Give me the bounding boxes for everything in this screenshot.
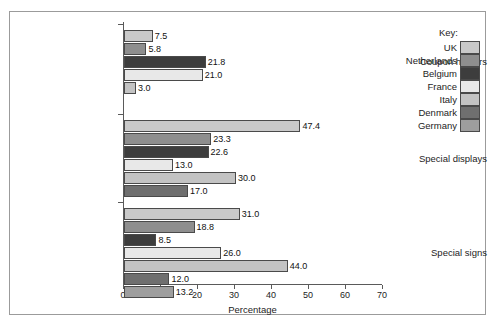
legend-swatch xyxy=(460,41,480,54)
x-tick-label: 50 xyxy=(303,290,313,300)
x-tick-label: 60 xyxy=(340,290,350,300)
x-tick xyxy=(197,285,198,289)
bar-value-label: 18.8 xyxy=(197,222,215,232)
x-tick xyxy=(308,285,309,289)
bar-value-label: 21.8 xyxy=(208,57,226,67)
bar xyxy=(124,120,300,132)
x-tick-label: 70 xyxy=(377,290,387,300)
category-label: Special signs xyxy=(383,247,487,258)
bar-value-label: 30.0 xyxy=(238,173,256,183)
bar-value-label: 7.5 xyxy=(155,31,168,41)
bar xyxy=(124,208,240,220)
bar-value-label: 26.0 xyxy=(223,248,241,258)
legend: Key: UKNetherlandsBelgiumFranceItalyDenm… xyxy=(392,27,480,132)
bar-value-label: 23.3 xyxy=(213,134,231,144)
legend-item-label: Belgium xyxy=(423,68,460,79)
legend-item: Netherlands xyxy=(392,54,480,67)
legend-item: Belgium xyxy=(392,67,480,80)
bar xyxy=(124,82,136,94)
legend-item-label: France xyxy=(427,81,460,92)
bar xyxy=(124,247,221,259)
bar xyxy=(124,286,174,298)
bar-value-label: 13.2 xyxy=(176,287,194,297)
bar-value-label: 8.5 xyxy=(158,235,171,245)
bar xyxy=(124,159,173,171)
legend-item: Denmark xyxy=(392,106,480,119)
legend-item-label: Netherlands xyxy=(406,55,460,66)
bar-value-label: 13.0 xyxy=(175,160,193,170)
legend-item-label: UK xyxy=(444,42,460,53)
legend-swatch xyxy=(460,106,480,119)
bar xyxy=(124,69,203,81)
bar xyxy=(124,146,209,158)
x-tick-label: 20 xyxy=(192,290,202,300)
bar xyxy=(124,234,156,246)
legend-title: Key: xyxy=(392,27,480,38)
chart-frame: 010203040506070 7.55.821.821.03.047.423.… xyxy=(9,11,486,315)
group-separator-tick xyxy=(118,202,123,203)
bar xyxy=(124,185,188,197)
bar xyxy=(124,273,169,285)
bar xyxy=(124,56,206,68)
bar-value-label: 47.4 xyxy=(302,121,320,131)
bar-value-label: 12.0 xyxy=(171,274,189,284)
bar xyxy=(124,133,211,145)
bar-value-label: 31.0 xyxy=(242,209,260,219)
legend-item: Italy xyxy=(392,93,480,106)
group-separator-tick xyxy=(118,114,123,115)
legend-swatch xyxy=(460,80,480,93)
bar xyxy=(124,172,236,184)
bar xyxy=(124,260,288,272)
legend-swatch xyxy=(460,54,480,67)
figure-container: 010203040506070 7.55.821.821.03.047.423.… xyxy=(0,0,497,334)
x-tick xyxy=(345,285,346,289)
legend-swatch xyxy=(460,67,480,80)
x-axis-title: Percentage xyxy=(123,304,382,315)
x-tick xyxy=(271,285,272,289)
legend-item: UK xyxy=(392,41,480,54)
legend-item: France xyxy=(392,80,480,93)
legend-rows: UKNetherlandsBelgiumFranceItalyDenmarkGe… xyxy=(392,41,480,132)
legend-swatch xyxy=(460,93,480,106)
group-separator-tick xyxy=(118,24,123,25)
caption-fragment xyxy=(0,0,497,9)
bar-value-label: 22.6 xyxy=(211,147,229,157)
x-tick xyxy=(234,285,235,289)
x-tick-label: 30 xyxy=(229,290,239,300)
legend-item-label: Italy xyxy=(440,94,460,105)
bar xyxy=(124,221,195,233)
bar-value-label: 44.0 xyxy=(290,261,308,271)
legend-item-label: Germany xyxy=(418,120,460,131)
legend-swatch xyxy=(460,119,480,132)
bar-value-label: 5.8 xyxy=(148,44,161,54)
legend-item: Germany xyxy=(392,119,480,132)
bar xyxy=(124,43,146,55)
bar xyxy=(124,30,153,42)
bar-value-label: 21.0 xyxy=(205,70,223,80)
legend-item-label: Denmark xyxy=(418,107,460,118)
bar-value-label: 17.0 xyxy=(190,186,208,196)
x-tick-label: 40 xyxy=(266,290,276,300)
category-label: Special displays xyxy=(383,153,487,164)
bar-value-label: 3.0 xyxy=(138,83,151,93)
x-tick xyxy=(382,285,383,289)
